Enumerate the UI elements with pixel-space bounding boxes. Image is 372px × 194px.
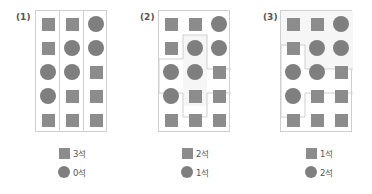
panel-2: (2) 2석 1석	[124, 0, 248, 194]
grid	[35, 10, 107, 132]
square-icon	[66, 18, 79, 31]
grid-cell	[60, 60, 84, 84]
square-icon	[213, 66, 226, 79]
grid-cell	[329, 108, 353, 132]
square-icon	[189, 90, 202, 103]
circle-icon	[187, 40, 203, 56]
grid	[280, 10, 352, 132]
legend-circle: 0석	[58, 166, 86, 178]
square-icon	[42, 114, 55, 127]
circle-icon	[309, 64, 325, 80]
circle-icon	[211, 40, 227, 56]
grid-cell	[207, 84, 231, 108]
square-icon	[311, 18, 324, 31]
circle-icon	[333, 16, 349, 32]
panel-label: (3)	[263, 12, 278, 22]
grid-cell	[207, 12, 231, 36]
panel-label: (1)	[16, 12, 31, 22]
square-icon	[66, 114, 79, 127]
circle-icon	[285, 88, 301, 104]
square-icon	[335, 114, 348, 127]
panel-1: (1) 3석 0석	[0, 0, 124, 194]
circle-icon	[88, 16, 104, 32]
circle-icon	[187, 64, 203, 80]
square-icon	[287, 18, 300, 31]
square-icon	[165, 42, 178, 55]
grid-cell	[305, 12, 329, 36]
square-icon	[165, 114, 178, 127]
square-icon	[287, 114, 300, 127]
grid-cell	[183, 60, 207, 84]
square-icon	[182, 148, 193, 159]
circle-icon	[64, 40, 80, 56]
grid-cell	[159, 84, 183, 108]
grid-cell	[329, 36, 353, 60]
grid-cell	[305, 60, 329, 84]
grid-cell	[36, 60, 60, 84]
square-icon	[311, 114, 324, 127]
circle-icon	[163, 88, 179, 104]
grid-cell	[281, 60, 305, 84]
grid-cell	[60, 12, 84, 36]
grid-cell	[183, 12, 207, 36]
square-icon	[165, 18, 178, 31]
grid-cell	[183, 108, 207, 132]
square-icon	[335, 90, 348, 103]
grid-cell	[305, 36, 329, 60]
square-icon	[42, 18, 55, 31]
square-icon	[306, 148, 317, 159]
square-icon	[213, 114, 226, 127]
circle-icon	[333, 40, 349, 56]
circle-icon	[285, 64, 301, 80]
grid-cell	[305, 84, 329, 108]
grid-cell	[207, 36, 231, 60]
circle-icon	[305, 166, 317, 178]
grid-cell	[84, 60, 108, 84]
grid	[158, 10, 230, 132]
grid-cell	[329, 84, 353, 108]
panel-label: (2)	[140, 12, 155, 22]
grid-cell	[281, 36, 305, 60]
grid-cell	[36, 108, 60, 132]
square-icon	[213, 90, 226, 103]
circle-icon	[40, 64, 56, 80]
legend-circle: 2석	[305, 166, 333, 178]
square-icon	[90, 66, 103, 79]
square-icon	[90, 90, 103, 103]
grid-cell	[281, 84, 305, 108]
grid-cell	[183, 36, 207, 60]
grid-cell	[183, 84, 207, 108]
grid-cell	[281, 12, 305, 36]
legend-circle: 1석	[181, 166, 209, 178]
square-icon	[287, 42, 300, 55]
circle-icon	[211, 16, 227, 32]
circle-icon	[309, 40, 325, 56]
square-icon	[66, 90, 79, 103]
grid-cell	[36, 84, 60, 108]
grid-cell	[84, 84, 108, 108]
grid-cell	[159, 12, 183, 36]
circle-icon	[181, 166, 193, 178]
square-icon	[311, 90, 324, 103]
panel-3: (3) 1석 2석	[248, 0, 372, 194]
grid-cell	[84, 36, 108, 60]
grid-cell	[60, 84, 84, 108]
grid-cell	[60, 36, 84, 60]
circle-icon	[40, 88, 56, 104]
square-icon	[189, 114, 202, 127]
square-icon	[335, 66, 348, 79]
square-icon	[59, 148, 70, 159]
grid-cell	[207, 108, 231, 132]
grid-cell	[159, 108, 183, 132]
grid-cell	[36, 36, 60, 60]
grid-cell	[60, 108, 84, 132]
grid-cell	[159, 36, 183, 60]
square-icon	[42, 42, 55, 55]
square-icon	[90, 114, 103, 127]
circle-icon	[64, 64, 80, 80]
grid-cell	[84, 108, 108, 132]
circle-icon	[88, 40, 104, 56]
legend-square: 3석	[59, 147, 86, 159]
circle-icon	[58, 166, 70, 178]
circle-icon	[163, 64, 179, 80]
